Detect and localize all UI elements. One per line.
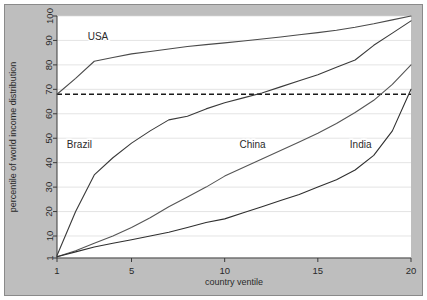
y-axis-tick-label: 100 bbox=[44, 8, 55, 24]
plot-area-background bbox=[57, 16, 411, 258]
series-label-china: China bbox=[240, 139, 267, 150]
y-axis-title: percentile of world income distribution bbox=[8, 62, 18, 213]
y-axis-tick-label: 70 bbox=[44, 84, 55, 95]
y-axis-tick-label: 20 bbox=[44, 206, 55, 217]
series-label-brazil: Brazil bbox=[67, 139, 92, 150]
x-axis-tick-label: 10 bbox=[219, 265, 230, 276]
y-axis-tick-label: 80 bbox=[44, 60, 55, 71]
series-label-usa: USA bbox=[88, 31, 109, 42]
y-axis-tick-label: 1 bbox=[44, 255, 55, 260]
y-axis-tick-label: 50 bbox=[44, 133, 55, 144]
y-axis-tick-label: 60 bbox=[44, 108, 55, 119]
x-axis-tick-label: 1 bbox=[54, 265, 59, 276]
x-axis-title: country ventile bbox=[205, 277, 263, 287]
x-axis-tick-label: 20 bbox=[406, 265, 417, 276]
y-axis-tick-label: 10 bbox=[44, 231, 55, 242]
income-distribution-chart: 110203040506070809010015101520country ve… bbox=[0, 0, 427, 300]
x-axis-tick-label: 5 bbox=[129, 265, 134, 276]
y-axis-tick-label: 40 bbox=[44, 157, 55, 168]
series-label-india: India bbox=[350, 139, 372, 150]
y-axis-tick-label: 90 bbox=[44, 35, 55, 46]
x-axis-tick-label: 15 bbox=[313, 265, 324, 276]
y-axis-tick-label: 30 bbox=[44, 182, 55, 193]
chart-figure: 110203040506070809010015101520country ve… bbox=[0, 0, 427, 300]
